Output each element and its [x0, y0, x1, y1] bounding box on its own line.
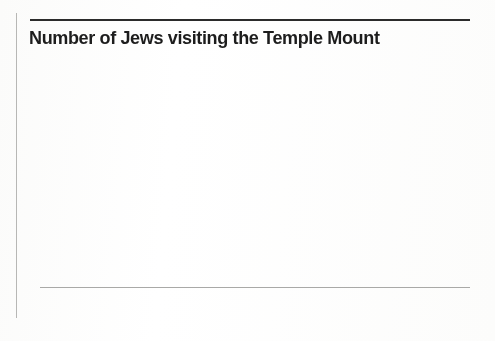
chart-figure: Number of Jews visiting the Temple Mount… — [0, 0, 495, 341]
x-axis-baseline — [40, 287, 470, 288]
plot-area: 5,658 2009 11,754 2014 11,001 2015 14,62… — [0, 0, 495, 341]
